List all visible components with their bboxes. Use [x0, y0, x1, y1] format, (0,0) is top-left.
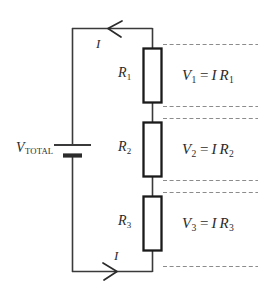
- source-voltage-subscript: TOTAL: [25, 146, 53, 156]
- circuit-diagram-figure: VTOTAL I I R1 R2 R3 V1=IR1 V2=IR2 V3=IR3: [0, 0, 262, 291]
- equation-v2-resistance-subscript: 2: [229, 148, 234, 159]
- current-label-top: I: [96, 37, 100, 50]
- equation-v3-resistance-subscript: 3: [229, 222, 234, 233]
- resistor-2-label: R2: [118, 140, 131, 154]
- equation-v1-voltage-symbol: V: [182, 67, 191, 83]
- source-voltage-symbol: V: [16, 140, 25, 155]
- equation-v2-voltage-symbol: V: [182, 141, 191, 157]
- resistor-2-subscript: 2: [127, 146, 131, 156]
- resistor-3-body: [144, 197, 162, 251]
- resistor-1-subscript: 1: [127, 72, 131, 82]
- resistor-2-body: [144, 123, 162, 177]
- resistor-2-symbol: R: [118, 139, 127, 154]
- equation-v1-current-symbol: I: [211, 67, 216, 83]
- resistor-3-subscript: 3: [127, 220, 131, 230]
- equation-v1-resistance-symbol: R: [219, 67, 228, 83]
- equation-v2: V2=IR2: [182, 142, 233, 157]
- current-label-bottom: I: [114, 249, 118, 262]
- equation-v2-equals: =: [196, 141, 211, 157]
- equation-v3-current-symbol: I: [211, 215, 216, 231]
- resistor-3-label: R3: [118, 214, 131, 228]
- equation-v1-resistance-subscript: 1: [229, 74, 234, 85]
- equation-v1-voltage-subscript: 1: [191, 74, 196, 85]
- source-voltage-label: VTOTAL: [16, 141, 53, 155]
- equation-v2-voltage-subscript: 2: [191, 148, 196, 159]
- resistor-1-label: R1: [118, 66, 131, 80]
- equation-v3-equals: =: [196, 215, 211, 231]
- resistor-1-body: [144, 49, 162, 103]
- equation-v3: V3=IR3: [182, 216, 233, 231]
- equation-v3-resistance-symbol: R: [219, 215, 228, 231]
- equation-v2-resistance-symbol: R: [219, 141, 228, 157]
- equation-v3-voltage-symbol: V: [182, 215, 191, 231]
- equation-v3-voltage-subscript: 3: [191, 222, 196, 233]
- equation-v1-equals: =: [196, 67, 211, 83]
- resistor-3-symbol: R: [118, 213, 127, 228]
- equation-v1: V1=IR1: [182, 68, 233, 83]
- resistor-1-symbol: R: [118, 65, 127, 80]
- equation-v2-current-symbol: I: [211, 141, 216, 157]
